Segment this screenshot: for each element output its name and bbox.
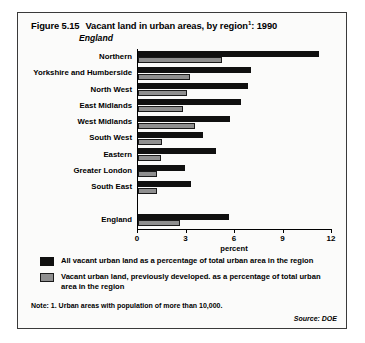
bar-all-vacant <box>138 83 248 89</box>
y-axis-tick-label: Northern <box>18 49 136 65</box>
x-axis-tick-label: 9 <box>280 234 284 243</box>
bar-group <box>137 114 346 130</box>
x-axis: 036912 percent <box>137 229 346 259</box>
bar-all-vacant <box>138 116 230 122</box>
legend-item: All vacant urban land as a percentage of… <box>40 256 340 266</box>
bar-all-vacant <box>138 214 229 220</box>
figure-number: Figure 5.15 <box>31 20 79 32</box>
bar-all-vacant <box>138 99 241 105</box>
x-axis-tick-label: 6 <box>232 234 236 243</box>
figure-title-suffix: : 1990 <box>251 20 277 31</box>
y-axis-tick-label: North West <box>18 82 136 98</box>
figure-subtitle: England <box>79 33 341 44</box>
y-axis-tick-label: Greater London <box>18 163 136 179</box>
bar-previously-developed <box>138 57 222 63</box>
bar-previously-developed <box>138 155 161 161</box>
x-axis-tick <box>331 229 332 233</box>
bar-previously-developed <box>138 123 195 129</box>
y-axis-tick-label: South West <box>18 130 136 146</box>
legend-swatch-previously-developed <box>40 273 54 282</box>
bar-previously-developed <box>138 74 190 80</box>
bar-previously-developed <box>138 171 157 177</box>
figure-panel: Figure 5.15Vacant land in urban areas, b… <box>17 12 347 329</box>
bar-all-vacant <box>138 148 216 154</box>
bar-all-vacant <box>138 165 185 171</box>
bar-group <box>137 179 346 195</box>
bar-all-vacant <box>138 51 319 57</box>
bar-all-vacant <box>138 132 203 138</box>
chart-plot-area: Northern Yorkshire and Humberside North … <box>18 49 346 249</box>
legend-label: All vacant urban land as a percentage of… <box>61 256 313 266</box>
y-axis-tick-label: Yorkshire and Humberside <box>18 65 136 81</box>
bar-previously-developed <box>138 188 157 194</box>
bar-group-spacer <box>137 196 346 212</box>
figure-title-block: Figure 5.15Vacant land in urban areas, b… <box>31 20 341 44</box>
y-axis-tick-label: South East <box>18 179 136 195</box>
x-axis-title: percent <box>220 244 247 253</box>
bar-group <box>137 98 346 114</box>
y-axis-tick-label: England <box>18 212 136 228</box>
bar-group <box>137 82 346 98</box>
bar-group <box>137 163 346 179</box>
bar-previously-developed <box>138 220 180 226</box>
bars-container <box>137 49 346 229</box>
bar-group <box>137 130 346 146</box>
x-axis-tick-label: 0 <box>135 234 139 243</box>
figure-title-line: Figure 5.15Vacant land in urban areas, b… <box>31 20 341 32</box>
figure-footer: Note: 1. Urban areas with population of … <box>31 302 337 322</box>
legend-label: Vacant urban land, previously developed.… <box>61 272 323 291</box>
y-axis-tick-label: East Midlands <box>18 98 136 114</box>
x-axis-tick <box>234 229 235 233</box>
x-axis-tick <box>283 229 284 233</box>
bar-previously-developed <box>138 106 183 112</box>
x-axis-tick <box>137 229 138 233</box>
bar-group <box>137 65 346 81</box>
bar-all-vacant <box>138 181 191 187</box>
bar-previously-developed <box>138 139 162 145</box>
bar-group <box>137 212 346 228</box>
legend-swatch-all-vacant <box>40 257 54 266</box>
bar-group <box>137 147 346 163</box>
chart-legend: All vacant urban land as a percentage of… <box>40 256 340 297</box>
source-text: Source: DOE <box>31 315 337 322</box>
bar-group <box>137 49 346 65</box>
y-axis-category-labels: Northern Yorkshire and Humberside North … <box>18 49 136 228</box>
bar-previously-developed <box>138 90 187 96</box>
page-title: Vacant land in urban areas, by region <box>85 20 248 31</box>
legend-item: Vacant urban land, previously developed.… <box>40 272 340 291</box>
x-axis-tick-label: 12 <box>327 234 336 243</box>
bar-all-vacant <box>138 67 251 73</box>
footnote-text: Note: 1. Urban areas with population of … <box>31 302 337 309</box>
x-axis-tick <box>186 229 187 233</box>
y-axis-tick-label: Eastern <box>18 147 136 163</box>
y-axis-tick-label: West Midlands <box>18 114 136 130</box>
x-axis-tick-label: 3 <box>183 234 187 243</box>
